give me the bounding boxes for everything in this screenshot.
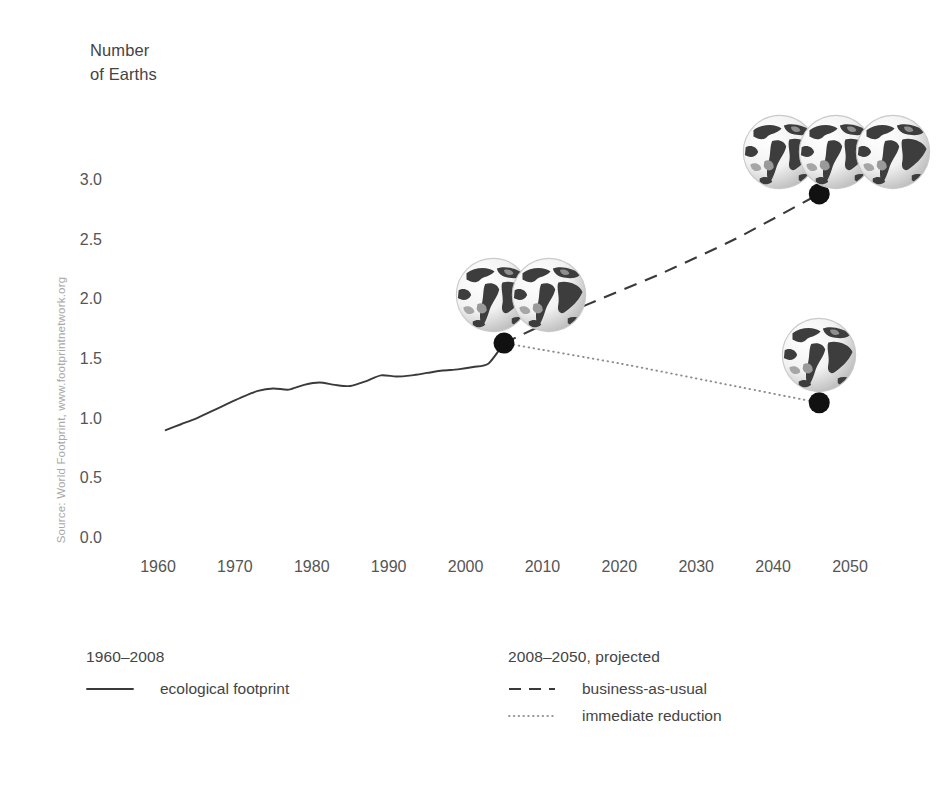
marker-immediate-reduction-endpoint [809, 392, 830, 413]
legend-label-ecological-footprint: ecological footprint [160, 680, 289, 698]
legend-sample-solid-icon [86, 682, 148, 696]
legend-item-ecological-footprint[interactable]: ecological footprint [86, 675, 289, 702]
series-line-ecological-footprint [166, 343, 504, 430]
globes-business-as-usual-3 [854, 113, 932, 191]
globe-icon [780, 316, 858, 394]
globes-branch-2 [510, 256, 588, 334]
legend-item-business-as-usual[interactable]: business-as-usual [508, 675, 722, 702]
globe-icon [854, 113, 932, 191]
legend-label-business-as-usual: business-as-usual [582, 680, 707, 698]
legend-sample-dashed-icon [508, 682, 570, 696]
marker-branch-point [494, 333, 515, 354]
chart-root: Number of Earths Source: World Footprint… [0, 0, 944, 788]
legend-sample-dotted-icon [508, 709, 570, 723]
legend-historical-heading: 1960–2008 [86, 648, 289, 666]
legend-projected-heading: 2008–2050, projected [508, 648, 722, 666]
globe-immediate-reduction-1 [780, 316, 858, 394]
legend-historical: 1960–2008 ecological footprint [86, 648, 289, 702]
series-line-immediate-reduction [504, 343, 819, 403]
globe-icon [510, 256, 588, 334]
legend-label-immediate-reduction: immediate reduction [582, 707, 722, 725]
legend-projected: 2008–2050, projected business-as-usual i… [508, 648, 722, 729]
legend-item-immediate-reduction[interactable]: immediate reduction [508, 702, 722, 729]
